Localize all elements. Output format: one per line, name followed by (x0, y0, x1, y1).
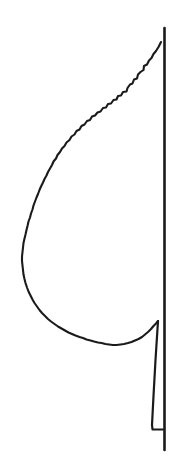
leaf-figure: Black ink line drawing of one half of a … (0, 0, 185, 474)
leaf-drawing-canvas (0, 0, 185, 474)
drawing-background (0, 0, 185, 474)
